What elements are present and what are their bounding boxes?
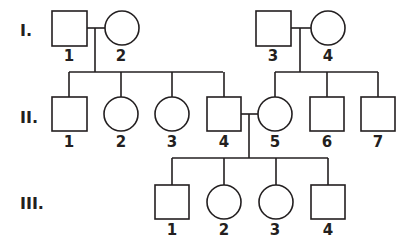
mating-i1-i2 (69, 28, 224, 97)
male-square-icon (310, 97, 344, 131)
individual-label: 6 (322, 133, 332, 151)
individual-ii-4: 4 (207, 97, 241, 151)
individual-iii-4: 4 (311, 185, 345, 239)
female-circle-icon (105, 11, 139, 45)
individual-iii-2: 2 (207, 185, 241, 239)
individual-label: 7 (373, 133, 383, 151)
individual-ii-7: 7 (361, 97, 395, 151)
individual-ii-5: 5 (258, 97, 292, 151)
male-square-icon (52, 97, 87, 131)
individual-ii-6: 6 (310, 97, 344, 151)
generation-label-ii: II. (20, 108, 38, 127)
individual-label: 1 (64, 133, 74, 151)
individual-ii-2: 2 (104, 97, 138, 151)
individual-label: 3 (167, 133, 177, 151)
individual-ii-1: 1 (52, 97, 87, 151)
individual-i-3: 3 (256, 11, 291, 65)
individual-label: 1 (64, 47, 74, 65)
male-square-icon (361, 97, 395, 131)
individual-label: 3 (268, 47, 278, 65)
female-circle-icon (207, 185, 241, 219)
individual-iii-1: 1 (155, 185, 189, 239)
female-circle-icon (155, 97, 189, 131)
generation-label-iii: III. (20, 194, 44, 213)
pedigree-diagram: I. II. III. (0, 0, 410, 246)
individual-label: 4 (219, 133, 229, 151)
individual-iii-3: 3 (259, 185, 293, 239)
mating-ii4-ii5 (172, 114, 328, 185)
individual-i-4: 4 (311, 11, 345, 65)
male-square-icon (256, 11, 291, 46)
female-circle-icon (258, 97, 292, 131)
individual-label: 2 (219, 221, 229, 239)
individual-label: 4 (323, 47, 333, 65)
female-circle-icon (104, 97, 138, 131)
female-circle-icon (311, 11, 345, 45)
generation-label-i: I. (20, 21, 32, 40)
male-square-icon (311, 185, 345, 219)
individual-label: 3 (270, 221, 280, 239)
male-square-icon (52, 11, 87, 46)
individual-label: 2 (116, 47, 126, 65)
female-circle-icon (259, 185, 293, 219)
male-square-icon (155, 185, 189, 219)
individual-i-2: 2 (105, 11, 139, 65)
individual-label: 1 (167, 221, 177, 239)
individual-label: 5 (270, 133, 280, 151)
individual-i-1: 1 (52, 11, 87, 65)
individual-label: 4 (323, 221, 333, 239)
individual-label: 2 (116, 133, 126, 151)
male-square-icon (207, 97, 241, 131)
individual-ii-3: 3 (155, 97, 189, 151)
